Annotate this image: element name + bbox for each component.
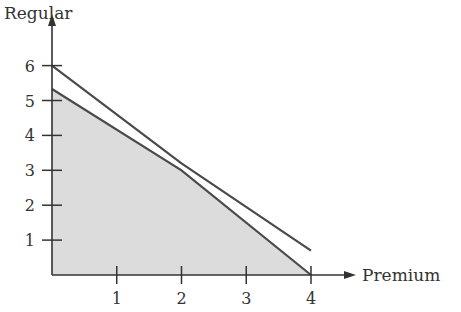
feasible-region [52, 89, 311, 275]
shaded-region [52, 89, 311, 275]
x-tick-label: 2 [176, 289, 186, 308]
chart: 1234123456 Regular Premium [0, 0, 461, 312]
x-tick-label: 1 [112, 289, 122, 308]
x-axis-arrow-icon [344, 271, 356, 279]
y-tick-label: 2 [25, 196, 35, 215]
x-axis-label: Premium [362, 265, 440, 285]
y-tick-label: 4 [25, 126, 35, 145]
y-tick-label: 6 [25, 57, 35, 76]
x-tick-label: 4 [306, 289, 316, 308]
y-tick-label: 5 [25, 92, 35, 111]
y-axis-label: Regular [4, 3, 73, 23]
y-tick-label: 3 [25, 161, 35, 180]
y-tick-label: 1 [25, 231, 35, 250]
x-tick-label: 3 [241, 289, 251, 308]
